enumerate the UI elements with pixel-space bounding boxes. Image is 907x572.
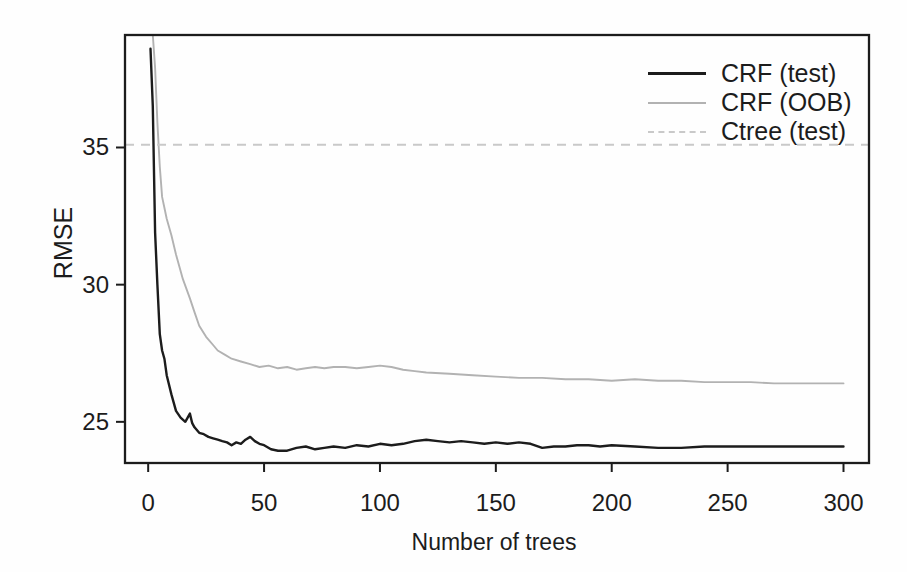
x-tick-label: 250 <box>708 489 748 516</box>
legend: CRF (test) CRF (OOB) Ctree (test) <box>648 59 852 146</box>
y-tick-label: 30 <box>82 271 109 298</box>
legend-label: Ctree (test) <box>721 117 846 146</box>
legend-label: CRF (OOB) <box>721 88 852 117</box>
x-axis-title: Number of trees <box>334 529 654 556</box>
legend-item-crf-test: CRF (test) <box>648 59 852 88</box>
x-tick-label: 200 <box>592 489 632 516</box>
crf-oob-line-sample <box>648 102 706 104</box>
x-tick-label: 300 <box>823 489 863 516</box>
legend-item-crf-oob: CRF (OOB) <box>648 88 852 117</box>
x-tick-label: 150 <box>476 489 516 516</box>
y-tick-label: 25 <box>82 408 109 435</box>
x-tick-label: 50 <box>251 489 278 516</box>
figure: 050100150200250300253035 Number of trees… <box>0 0 907 572</box>
crf-test-line-sample <box>648 72 706 75</box>
ctree-test-line-sample <box>648 131 706 133</box>
y-tick-label: 35 <box>82 133 109 160</box>
x-tick-label: 0 <box>141 489 154 516</box>
legend-label: CRF (test) <box>721 59 836 88</box>
y-axis-title: RMSE <box>48 183 78 303</box>
legend-item-ctree-test: Ctree (test) <box>648 117 852 146</box>
x-tick-label: 100 <box>360 489 400 516</box>
